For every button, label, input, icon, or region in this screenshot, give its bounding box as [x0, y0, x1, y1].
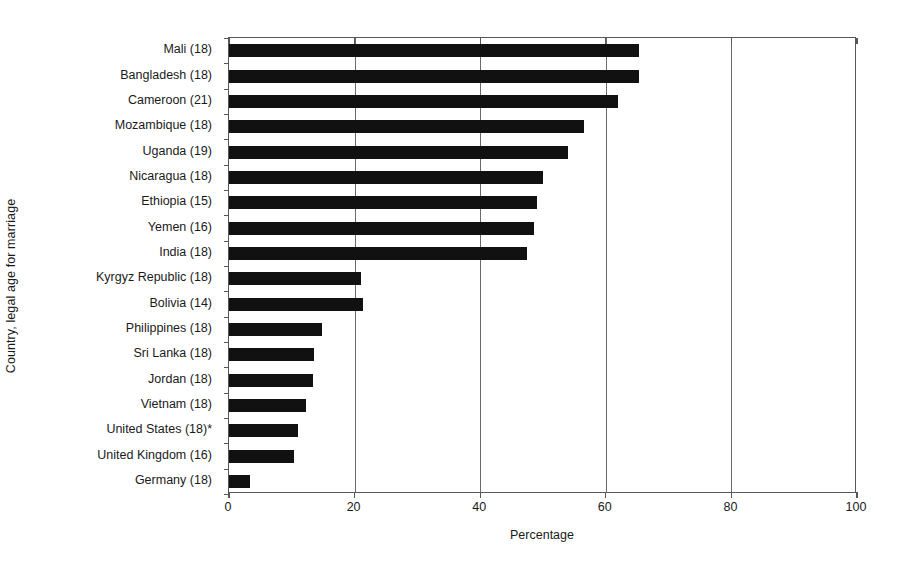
- category-axis-labels: Mali (18)Bangladesh (18)Cameroon (21)Moz…: [60, 37, 220, 493]
- bar: [229, 222, 534, 235]
- x-axis-tick-top: [480, 38, 481, 44]
- y-axis-tick: [224, 215, 229, 216]
- x-axis-tick-top: [354, 38, 355, 44]
- y-axis-tick: [224, 266, 229, 267]
- x-axis-tick-labels: 020406080100: [228, 500, 856, 518]
- category-label: Germany (18): [135, 474, 212, 487]
- bar: [229, 196, 537, 209]
- bar: [229, 298, 363, 311]
- category-label: Bangladesh (18): [120, 69, 212, 82]
- bar: [229, 450, 294, 463]
- bar: [229, 171, 543, 184]
- category-label: United States (18)*: [106, 423, 212, 436]
- y-axis-tick: [224, 469, 229, 470]
- bar: [229, 399, 306, 412]
- category-label: Vietnam (18): [141, 398, 212, 411]
- bar: [229, 44, 639, 57]
- category-label: United Kingdom (16): [97, 449, 212, 462]
- x-axis-tick-label: 20: [347, 500, 361, 514]
- x-axis-tick: [354, 492, 355, 498]
- bar: [229, 247, 527, 260]
- category-label: Ethiopia (15): [141, 195, 212, 208]
- x-axis-tick: [480, 492, 481, 498]
- y-axis-tick: [224, 241, 229, 242]
- y-axis-tick: [224, 190, 229, 191]
- category-label: Jordan (18): [148, 373, 212, 386]
- bar: [229, 70, 639, 83]
- x-axis-tick-top: [856, 38, 857, 44]
- x-axis-tick-top: [605, 38, 606, 44]
- x-axis-tick-label: 60: [598, 500, 612, 514]
- y-axis-title-label: Country, legal age for marriage: [4, 199, 18, 373]
- y-axis-tick: [224, 494, 229, 495]
- category-label: Mali (18): [163, 43, 212, 56]
- y-axis-tick: [224, 418, 229, 419]
- x-axis-title: Percentage: [228, 528, 856, 542]
- y-axis-tick: [224, 89, 229, 90]
- y-axis-tick: [224, 443, 229, 444]
- y-axis-tick: [224, 317, 229, 318]
- gridline: [731, 38, 732, 492]
- bar: [229, 475, 250, 488]
- bar: [229, 272, 361, 285]
- bar: [229, 120, 584, 133]
- x-axis-tick: [605, 492, 606, 498]
- y-axis-tick: [224, 393, 229, 394]
- bar: [229, 146, 568, 159]
- bar: [229, 323, 322, 336]
- category-label: Sri Lanka (18): [133, 347, 212, 360]
- category-label: Cameroon (21): [128, 94, 212, 107]
- y-axis-tick: [224, 367, 229, 368]
- bar: [229, 348, 314, 361]
- y-axis-tick: [224, 291, 229, 292]
- bar-chart: Country, legal age for marriage Mali (18…: [0, 0, 902, 572]
- plot-area: [228, 37, 856, 493]
- category-label: Philippines (18): [126, 322, 212, 335]
- category-label: Bolivia (14): [149, 297, 212, 310]
- category-label: Yemen (16): [148, 221, 212, 234]
- x-axis-tick-label: 100: [846, 500, 867, 514]
- y-axis-tick: [224, 114, 229, 115]
- x-axis-tick: [856, 492, 857, 498]
- bar: [229, 374, 313, 387]
- y-axis-title: Country, legal age for marriage: [0, 0, 24, 572]
- y-axis-tick: [224, 342, 229, 343]
- bar: [229, 95, 618, 108]
- x-axis-tick-label: 0: [225, 500, 232, 514]
- category-label: India (18): [159, 246, 212, 259]
- x-axis-tick-label: 40: [472, 500, 486, 514]
- y-axis-tick: [224, 63, 229, 64]
- x-axis-tick-top: [731, 38, 732, 44]
- category-label: Kyrgyz Republic (18): [96, 271, 212, 284]
- x-axis-tick: [731, 492, 732, 498]
- y-axis-tick: [224, 38, 229, 39]
- category-label: Uganda (19): [143, 145, 213, 158]
- category-label: Nicaragua (18): [129, 170, 212, 183]
- bar: [229, 424, 298, 437]
- category-label: Mozambique (18): [115, 119, 212, 132]
- y-axis-tick: [224, 165, 229, 166]
- y-axis-tick: [224, 139, 229, 140]
- x-axis-tick-label: 80: [723, 500, 737, 514]
